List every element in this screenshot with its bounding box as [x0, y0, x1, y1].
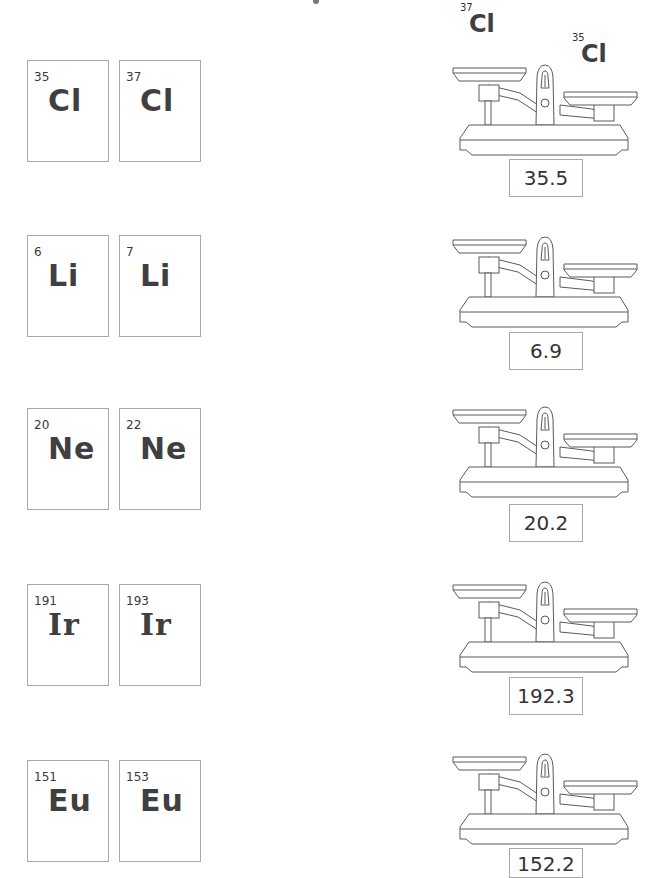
isotope-card[interactable]: 20 Ne — [27, 408, 109, 510]
isotope-mass: 20 — [34, 418, 49, 432]
isotope-symbol: Li — [48, 258, 79, 293]
isotope-card[interactable]: 6 Li — [27, 235, 109, 337]
isotope-card[interactable]: 151 Eu — [27, 760, 109, 862]
isotope-symbol: Cl — [140, 83, 174, 118]
balance-scale-icon — [452, 235, 642, 345]
balance-scale-icon — [452, 405, 642, 515]
isotope-mass: 35 — [34, 70, 49, 84]
relative-atomic-mass-box[interactable]: 35.5 — [509, 159, 583, 197]
isotope-card[interactable]: 153 Eu — [119, 760, 201, 862]
isotope-mass: 191 — [34, 594, 57, 608]
isotope-symbol: Eu — [48, 783, 92, 818]
isotope-card[interactable]: 35 Cl — [27, 60, 109, 162]
isotope-mass: 37 — [126, 70, 141, 84]
isotope-card[interactable]: 22 Ne — [119, 408, 201, 510]
isotope-symbol: Eu — [140, 783, 184, 818]
isotope-mass: 6 — [34, 245, 42, 259]
balance-scale-icon — [452, 580, 642, 690]
isotope-symbol: Ir — [140, 607, 172, 642]
isotope-mass: 22 — [126, 418, 141, 432]
relative-atomic-mass-box[interactable]: 152.2 — [509, 848, 583, 878]
relative-atomic-mass-box[interactable]: 20.2 — [509, 504, 583, 542]
isotope-symbol: Ir — [48, 607, 80, 642]
isotope-mass: 153 — [126, 770, 149, 784]
cut-off-text-fragment — [313, 0, 319, 4]
relative-atomic-mass-box[interactable]: 192.3 — [509, 677, 583, 715]
isotope-card[interactable]: 191 Ir — [27, 584, 109, 686]
isotope-symbol: Li — [140, 258, 171, 293]
isotope-symbol: Ne — [48, 431, 95, 466]
balance-scale-icon — [452, 63, 642, 173]
relative-atomic-mass-box[interactable]: 6.9 — [509, 332, 583, 370]
isotope-mass: 151 — [34, 770, 57, 784]
isotope-symbol: Ne — [140, 431, 187, 466]
isotope-symbol: Cl — [48, 83, 82, 118]
isotope-card[interactable]: 193 Ir — [119, 584, 201, 686]
isotope-symbol: Cl — [469, 10, 495, 38]
isotope-card[interactable]: 7 Li — [119, 235, 201, 337]
isotope-card[interactable]: 37 Cl — [119, 60, 201, 162]
isotope-mass: 7 — [126, 245, 134, 259]
balance-scale-icon — [452, 752, 642, 862]
isotope-mass: 193 — [126, 594, 149, 608]
